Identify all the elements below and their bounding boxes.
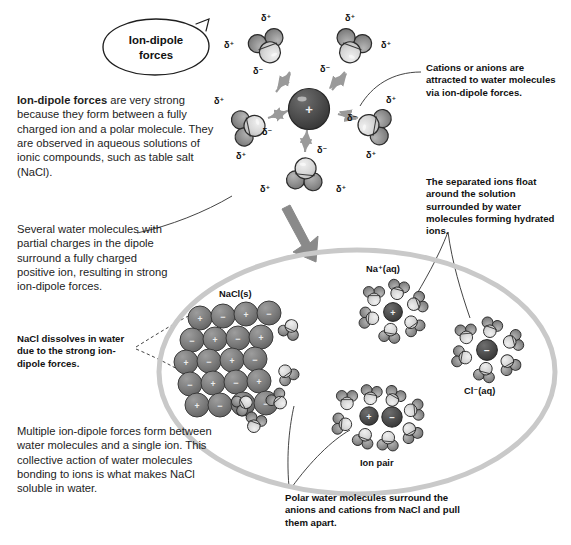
hydrated-chloride-ion: − (451, 315, 525, 383)
lattice-ion: + (174, 350, 198, 374)
lattice-ion: − (208, 393, 232, 417)
central-cation: + (289, 89, 330, 130)
lattice-ion: − (243, 347, 267, 371)
lattice-ion: − (197, 349, 221, 373)
svg-text:−: − (220, 312, 225, 322)
delta-minus-ul: δ⁻ (253, 66, 263, 76)
leader-polar-left (288, 406, 294, 487)
water-upper-right (330, 26, 374, 68)
delta-plus-b-a: δ⁺ (260, 184, 270, 194)
label-nacl-solid: NaCl(s) (219, 289, 252, 299)
lattice-ion: + (234, 302, 258, 326)
svg-text:−: − (484, 345, 490, 356)
delta-plus-ur-b: δ⁺ (381, 40, 391, 50)
lattice-ion: + (188, 306, 212, 330)
delta-plus-l-a: δ⁺ (214, 96, 224, 106)
delta-plus-ul-a: δ⁺ (261, 13, 271, 23)
lattice-row: + − + − (174, 347, 267, 374)
lattice-row: − + − + (178, 369, 271, 396)
svg-text:+: + (198, 314, 203, 324)
lattice-ion: + (203, 327, 227, 351)
svg-text:−: − (189, 336, 194, 346)
svg-text:−: − (252, 355, 257, 365)
lattice-row: + − + − (185, 391, 278, 417)
lattice-ion: − (211, 304, 235, 328)
label-chloride-aq: Cl⁻(aq) (464, 385, 495, 396)
free-water (276, 316, 303, 342)
delta-plus-b-b: δ⁺ (336, 184, 346, 194)
svg-text:−: − (217, 401, 222, 411)
water-upper-left (246, 26, 290, 68)
lattice-ion: + (249, 325, 273, 349)
water-bottom (286, 156, 325, 192)
several-water-paragraph: Several water molecules with partial cha… (17, 222, 177, 294)
svg-text:+: + (230, 356, 235, 366)
multiple-forces-paragraph: Multiple ion-dipole forces form between … (17, 424, 213, 496)
lattice-ion: + (220, 348, 244, 372)
svg-text:−: − (266, 309, 271, 319)
ion-dipole-complex: + (230, 26, 393, 192)
delta-minus-ur: δ⁻ (320, 64, 330, 74)
lattice-ion: + (185, 393, 209, 417)
svg-text:+: + (213, 335, 218, 345)
svg-text:+: + (257, 377, 262, 387)
lattice-ion: − (226, 326, 250, 350)
svg-text:−: − (206, 357, 211, 367)
svg-text:−: − (187, 380, 192, 390)
figure-canvas: + + − (0, 0, 571, 545)
svg-text:+: + (184, 358, 189, 368)
svg-text:+: + (195, 401, 200, 411)
svg-text:+: + (259, 333, 264, 343)
svg-text:+: + (366, 412, 371, 422)
lattice-ion: − (257, 301, 281, 325)
delta-plus-l-b: δ⁺ (236, 151, 246, 161)
label-ion-pair: Ion pair (360, 458, 394, 468)
intro-rest: are very strong because they form betwee… (17, 94, 213, 178)
lattice-ion: + (201, 371, 225, 395)
label-sodium-aq: Na⁺(aq) (366, 263, 400, 274)
svg-text:+: + (244, 310, 249, 320)
lattice-ion: − (224, 370, 248, 394)
leader-separated-ions-2 (448, 232, 470, 318)
delta-plus-r-b: δ⁺ (366, 150, 376, 160)
polar-water-callout: Polar water molecules surround the anion… (285, 492, 460, 529)
delta-plus-ul-b: δ⁺ (224, 40, 234, 50)
lattice-row: + − + − (188, 301, 281, 330)
free-water (273, 360, 301, 388)
nacl-dissolves-callout: NaCl dissolves in water due to the stron… (17, 333, 139, 370)
delta-minus-r: δ⁻ (347, 113, 357, 123)
cations-anions-callout: Cations or anions are attracted to water… (426, 62, 566, 99)
svg-text:+: + (390, 308, 395, 318)
lattice-ion: − (180, 328, 204, 352)
separated-ions-callout: The separated ions float around the solu… (426, 176, 569, 237)
nacl-crystal: + − + − − + − + + − + − − + − + (174, 301, 281, 417)
hydrated-sodium-ion: + (359, 278, 430, 344)
svg-text:−: − (235, 334, 240, 344)
svg-text:+: + (211, 379, 216, 389)
lattice-ion: + (247, 369, 271, 393)
delta-minus-l: δ⁻ (262, 127, 272, 137)
lattice-ion: − (178, 372, 202, 396)
leader-polar-right (292, 430, 350, 487)
ion-pair-cluster: + − (332, 383, 425, 451)
delta-plus-r-a: δ⁺ (386, 95, 396, 105)
intro-bold-lead: Ion-dipole forces (17, 94, 107, 106)
svg-text:+: + (305, 102, 313, 117)
svg-text:−: − (389, 412, 395, 423)
water-right (355, 106, 393, 147)
intro-paragraph: Ion-dipole forces are very strong becaus… (17, 93, 217, 179)
topic-bubble-label: Ion-dipole forces (114, 33, 198, 63)
delta-plus-ur-a: δ⁺ (345, 13, 355, 23)
svg-text:−: − (233, 378, 238, 388)
delta-minus-b: δ⁻ (317, 145, 327, 155)
